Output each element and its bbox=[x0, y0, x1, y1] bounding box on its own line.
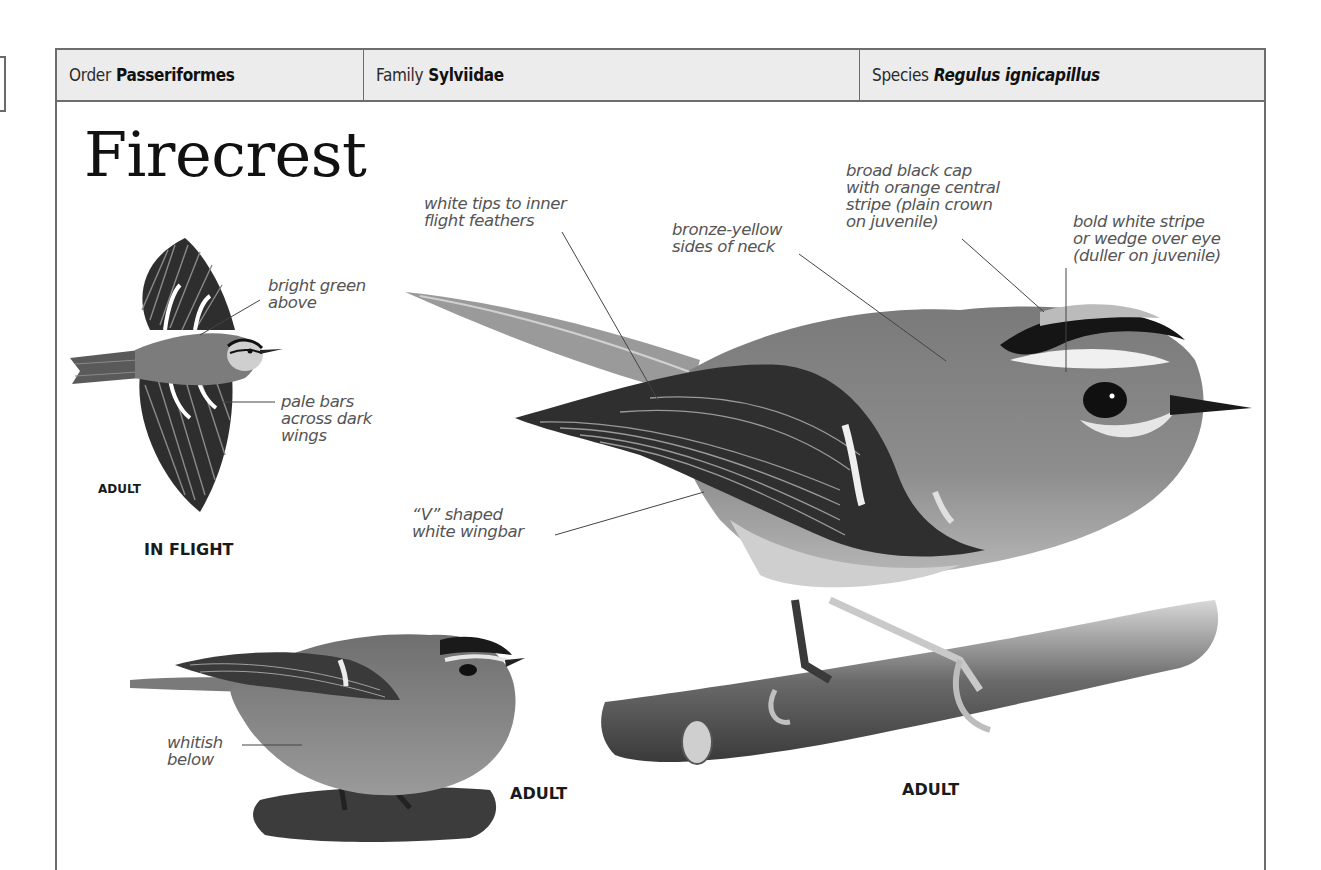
annotation-pale-bars: pale bars across dark wings bbox=[281, 393, 372, 444]
annotation-bright-green-above: bright green above bbox=[268, 277, 366, 311]
small-photo-caption: ADULT bbox=[510, 784, 567, 803]
annotation-v-shaped-wingbar: “V” shaped white wingbar bbox=[412, 506, 524, 540]
annotation-whitish-below: whitish below bbox=[167, 734, 223, 768]
annotation-white-tips-flight-feathers: white tips to inner flight feathers bbox=[424, 195, 566, 229]
annotation-bold-white-stripe: bold white stripe or wedge over eye (dul… bbox=[1073, 213, 1221, 264]
in-flight-caption: IN FLIGHT bbox=[144, 540, 233, 559]
in-flight-age-label: ADULT bbox=[98, 482, 141, 496]
in-flight-bird-illustration bbox=[70, 238, 283, 512]
annotation-bronze-yellow-neck: bronze-yellow sides of neck bbox=[672, 221, 782, 255]
main-photo-caption: ADULT bbox=[902, 780, 959, 799]
adult-bird-photo-main bbox=[405, 292, 1252, 764]
annotation-broad-black-cap: broad black cap with orange central stri… bbox=[846, 162, 1000, 230]
